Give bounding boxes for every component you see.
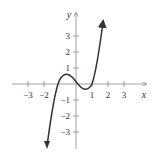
y-axis-label: y [66,9,72,20]
y-tick-label: 2 [66,47,71,57]
x-tick-label: −3 [23,90,33,100]
chart-canvas: −3 −2 1 2 3 3 2 1 −1 −2 −3 x y [0,0,152,155]
y-tick-label: −3 [60,127,70,137]
curve-start-arrow-icon [44,141,50,149]
x-tick-label: 3 [122,90,127,100]
x-tick-label: 2 [106,90,111,100]
y-tick-label: −2 [60,111,70,121]
y-tick-label: −1 [60,95,70,105]
x-axis-label: x [141,89,147,100]
y-tick-label: 3 [66,31,71,41]
x-tick-label: 1 [90,90,95,100]
y-tick-label: 1 [66,63,71,73]
x-tick-label: −2 [39,90,49,100]
